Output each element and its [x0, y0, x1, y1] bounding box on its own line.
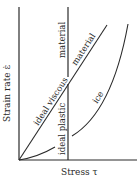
strain-rate-vs-stress-diagram: Strain rate ε̇ Stress τ ideal viscous ma…	[0, 0, 137, 179]
x-axis-label: Stress τ	[61, 167, 98, 177]
y-axis-label: Strain rate ε̇	[2, 65, 12, 122]
ice-label: ice	[90, 89, 105, 105]
near-origin-curve	[19, 147, 55, 160]
ice-curve	[72, 24, 128, 136]
ideal-plastic-label: ideal plastic	[57, 103, 67, 155]
plastic-material-label: material	[57, 22, 67, 58]
